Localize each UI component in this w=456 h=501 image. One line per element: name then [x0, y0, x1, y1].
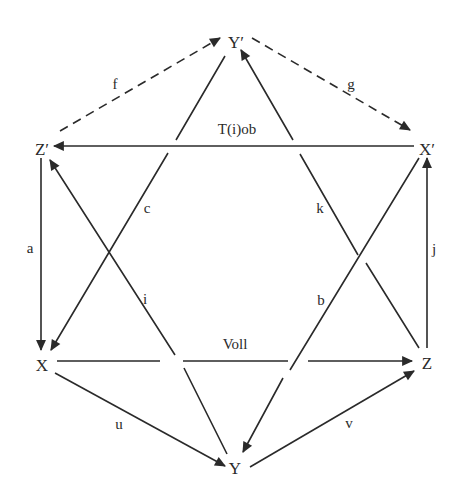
edge-u-label: u	[115, 416, 123, 432]
node-y-prime: Y′	[228, 33, 244, 52]
node-z-prime: Z′	[35, 140, 49, 159]
node-z: Z	[422, 354, 432, 373]
edge-f-line	[60, 38, 220, 131]
node-x-prime: X′	[419, 140, 435, 159]
node-x: X	[36, 356, 48, 375]
edge-i-label: i	[143, 291, 147, 307]
node-y: Y	[229, 459, 241, 478]
edge-a-label: a	[27, 240, 34, 256]
edge-v-label: v	[345, 415, 353, 431]
edge-voll-label: Voll	[223, 336, 248, 352]
edge-b-label: b	[317, 292, 325, 308]
edge-g-line	[252, 38, 410, 130]
edge-v-line	[250, 371, 414, 467]
edge-u-line	[55, 373, 225, 466]
edge-c-label: c	[144, 200, 151, 216]
edge-tiob-label: T(i)ob	[218, 121, 256, 138]
edge-f-label: f	[113, 76, 118, 92]
edge-g-label: g	[347, 76, 355, 92]
hexagram-diagram: Y′ Z′ X′ X Z Y f g T(i)ob a c i k b j Vo…	[0, 0, 456, 501]
edge-k-label: k	[316, 200, 324, 216]
edge-j-label: j	[431, 241, 436, 257]
